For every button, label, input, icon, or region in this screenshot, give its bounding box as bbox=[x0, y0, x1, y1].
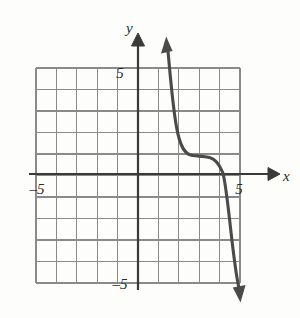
coordinate-plane-figure: y x 5 –5 –5 5 bbox=[0, 0, 300, 318]
x-axis-tick-label-positive-5: 5 bbox=[235, 181, 243, 197]
y-axis-tick-label-negative-5: –5 bbox=[112, 276, 129, 292]
x-axis-label: x bbox=[282, 168, 290, 184]
y-axis-label: y bbox=[124, 20, 133, 36]
x-axis-tick-label-negative-5: –5 bbox=[29, 181, 46, 197]
y-axis-tick-label-positive-5: 5 bbox=[116, 65, 124, 81]
graph-screenshot: y x 5 –5 –5 5 bbox=[0, 0, 300, 318]
figure-background bbox=[0, 0, 300, 318]
